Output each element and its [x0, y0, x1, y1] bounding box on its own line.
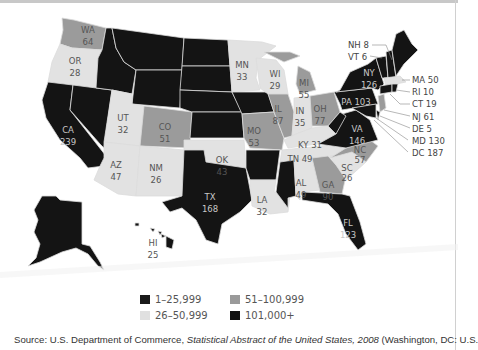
- label-nc-abbr: NC: [354, 145, 366, 155]
- label-mo-abbr: MO: [247, 126, 261, 136]
- label-oh-abbr: OH: [313, 104, 326, 114]
- state-me: [392, 30, 418, 76]
- callout-de: DE 5: [412, 124, 432, 134]
- callout-nh: NH 8: [348, 40, 369, 50]
- legend-item: 101,000+: [230, 310, 295, 321]
- label-ca-abbr: CA: [62, 125, 74, 135]
- callout-nj: NJ 61: [412, 112, 434, 122]
- label-wi-value: 29: [270, 81, 281, 91]
- label-la-value: 32: [257, 207, 268, 217]
- label-fl-value: 123: [340, 230, 356, 240]
- label-wa-abbr: WA: [81, 25, 95, 35]
- label-co-value: 51: [160, 134, 171, 144]
- legend-item: 1–25,999: [140, 294, 201, 305]
- label-az-abbr: AZ: [110, 160, 122, 170]
- label-hi-abbr: HI: [149, 238, 158, 248]
- callout-dc: DC 187: [412, 148, 443, 158]
- state-nj: [378, 94, 386, 112]
- legend-item: 51–100,999: [230, 294, 304, 305]
- label-hi-value: 25: [148, 250, 159, 260]
- label-fl-abbr: FL: [343, 218, 353, 228]
- label-ok-value: 43: [217, 167, 228, 177]
- label-ga-value: 90: [323, 192, 334, 202]
- label-ny-abbr: NY: [363, 68, 375, 78]
- label-wa-value: 64: [83, 37, 94, 47]
- label-il-value: 87: [273, 116, 284, 126]
- label-mo-value: 53: [249, 138, 260, 148]
- label-ky: KY 31: [298, 140, 322, 150]
- label-az-value: 47: [111, 172, 122, 182]
- label-co-abbr: CO: [159, 122, 172, 132]
- label-la-abbr: LA: [257, 195, 268, 205]
- legend-swatch: [140, 311, 150, 320]
- label-nc-value: 57: [355, 155, 366, 165]
- state-ri: [392, 84, 398, 92]
- callout-md: MD 130: [412, 136, 445, 146]
- legend-swatch: [230, 295, 240, 304]
- state-ar: [246, 150, 280, 180]
- label-ut-value: 32: [118, 125, 129, 135]
- label-in-abbr: IN: [296, 106, 305, 116]
- label-nm-abbr: NM: [149, 163, 163, 173]
- label-pa: PA 103: [341, 97, 370, 107]
- state-or: [48, 44, 102, 88]
- label-or-abbr: OR: [69, 56, 82, 66]
- label-in-value: 35: [295, 118, 306, 128]
- label-nm-value: 26: [151, 175, 162, 185]
- state-wy: [132, 70, 182, 108]
- label-ga-abbr: GA: [322, 180, 335, 190]
- label-mn-value: 33: [237, 72, 248, 82]
- legend-label: 1–25,999: [155, 294, 201, 305]
- label-al-value: 49: [296, 190, 307, 200]
- source-suffix: (Washington, DC: U.S.: [379, 334, 478, 345]
- state-nd: [182, 38, 230, 66]
- label-al-abbr: AL: [296, 178, 307, 188]
- label-mn-abbr: MN: [235, 60, 249, 70]
- label-tx-abbr: TX: [203, 192, 215, 202]
- state-sd: [180, 66, 232, 92]
- legend-label: 101,000+: [245, 310, 295, 321]
- callout-ri: RI 10: [412, 87, 434, 97]
- label-ny-value: 126: [361, 80, 377, 90]
- legend-swatch: [140, 295, 150, 304]
- source-citation: Source: U.S. Department of Commerce, Sta…: [14, 334, 478, 345]
- label-ok-abbr: OK: [216, 155, 229, 165]
- label-va-abbr: VA: [351, 124, 362, 134]
- callout-ma: MA 50: [412, 75, 439, 85]
- state-ct: [380, 84, 392, 94]
- label-wi-abbr: WI: [270, 69, 281, 79]
- state-ks: [190, 112, 244, 138]
- state-fl: [302, 192, 366, 250]
- label-ut-abbr: UT: [117, 113, 129, 123]
- state-ak: [28, 196, 104, 270]
- callout-ct: CT 19: [412, 99, 437, 109]
- label-mi-value: 55: [299, 90, 310, 100]
- label-ca-value: 239: [60, 137, 76, 147]
- label-il-abbr: IL: [274, 104, 282, 114]
- label-mi-abbr: MI: [299, 78, 309, 88]
- legend-item: 26–50,999: [140, 310, 208, 321]
- legend-label: 51–100,999: [245, 294, 304, 305]
- label-va-value: 146: [349, 136, 365, 146]
- callout-vt: VT 6: [348, 52, 367, 62]
- label-tn: TN 49: [286, 154, 312, 164]
- label-tx-value: 168: [202, 204, 218, 214]
- label-oh-value: 77: [315, 116, 326, 126]
- source-prefix: Source: U.S. Department of Commerce,: [14, 334, 187, 345]
- label-sc-abbr: SC: [341, 163, 352, 173]
- label-sc-value: 26: [342, 173, 353, 183]
- legend-label: 26–50,999: [155, 310, 208, 321]
- source-title: Statistical Abstract of the United State…: [187, 334, 379, 345]
- legend-swatch: [230, 311, 240, 320]
- label-or-value: 28: [70, 68, 81, 78]
